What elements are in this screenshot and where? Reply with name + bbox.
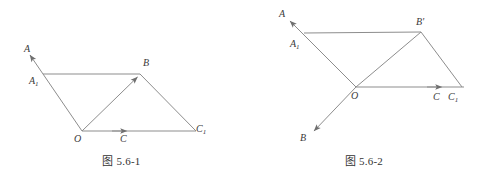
figure-1-label-C: C — [120, 134, 127, 144]
figure-2-label-B: B — [300, 133, 306, 143]
figure-2-label-C1-subscript: 1 — [455, 96, 459, 104]
figure-1-label-A1-subscript: 1 — [35, 80, 39, 88]
vector-O-A — [30, 55, 82, 131]
figure-2-panel: A A1 B' B O C C1 图 5.6-2 — [243, 0, 485, 181]
figure-1-caption: 图 5.6-1 — [0, 152, 243, 168]
figure-2-caption: 图 5.6-2 — [243, 152, 485, 168]
figure-page: A A1 B O C C1 图 5.6-1 — [0, 0, 485, 181]
figure-1-label-C1: C1 — [196, 124, 206, 134]
vector-O-Bprime — [356, 32, 421, 87]
figure-2-label-C1: C1 — [448, 92, 458, 102]
figure-2-label-C1-base: C — [448, 91, 455, 102]
figure-1-panel: A A1 B O C C1 图 5.6-1 — [0, 0, 243, 181]
figure-1-label-C1-subscript: 1 — [203, 128, 207, 136]
figure-2-label-A: A — [279, 9, 285, 19]
figure-2-label-C: C — [433, 92, 440, 102]
figure-2-label-O: O — [351, 91, 358, 101]
vector-O-B — [82, 77, 138, 131]
figure-2-label-A1-subscript: 1 — [296, 43, 300, 51]
figure-2-label-Bprime-mark: ' — [422, 16, 424, 27]
figure-2-canvas — [243, 0, 485, 150]
figure-1-label-O: O — [74, 134, 81, 144]
figure-1-label-A1: A1 — [29, 76, 39, 86]
segment-A1-Bprime — [304, 32, 421, 33]
figure-1-label-B: B — [143, 58, 149, 68]
figure-2-label-A1: A1 — [290, 39, 300, 49]
segment-Bprime-C1 — [421, 32, 462, 87]
figure-2-label-Bprime: B' — [416, 17, 424, 27]
vector-O-A — [290, 21, 356, 87]
figure-1-canvas — [0, 0, 243, 150]
figure-1-label-A: A — [24, 44, 30, 54]
figure-1-label-C1-base: C — [196, 123, 203, 134]
segment-B-C1 — [140, 74, 196, 131]
vector-O-B — [314, 87, 356, 131]
